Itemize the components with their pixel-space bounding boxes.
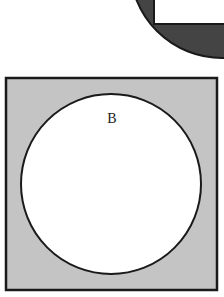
top-figure (130, 0, 224, 58)
set-b-label: B (107, 111, 116, 126)
venn-diagram-canvas: B (0, 0, 224, 297)
top-white-square (154, 0, 224, 24)
bottom-figure: B (6, 78, 217, 290)
